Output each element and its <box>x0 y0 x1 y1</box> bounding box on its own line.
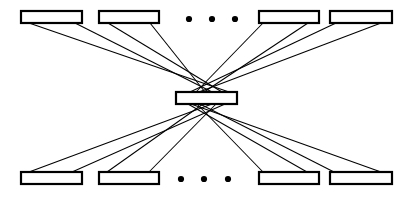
top-ellipsis-dot-3 <box>232 16 238 22</box>
node-rect-bottom-4[interactable] <box>330 172 392 184</box>
diagram-canvas <box>0 0 411 200</box>
diagram-svg <box>0 0 411 200</box>
top-ellipsis <box>186 16 238 22</box>
node-rect-bottom-3[interactable] <box>259 172 319 184</box>
node-top-2[interactable] <box>99 11 159 23</box>
bottom-ellipsis <box>178 176 231 182</box>
node-bottom-2[interactable] <box>99 172 159 184</box>
top-ellipsis-dot-1 <box>186 16 192 22</box>
node-bottom-4[interactable] <box>330 172 392 184</box>
link-line-center-to-bottom-1 <box>72 104 225 172</box>
node-top-4[interactable] <box>330 11 392 23</box>
node-rect-bottom-1[interactable] <box>21 172 82 184</box>
node-top-1[interactable] <box>21 11 82 23</box>
link-line-top-2-to-center <box>108 23 222 92</box>
node-center[interactable] <box>176 92 237 104</box>
top-ellipsis-dot-2 <box>209 16 215 22</box>
bottom-ellipsis-dot-1 <box>178 176 184 182</box>
link-line-top-4-to-center <box>190 23 336 92</box>
link-line-top-3-to-center <box>196 23 263 92</box>
node-rect-top-4[interactable] <box>330 11 392 23</box>
link-line-center-to-bottom-4 <box>191 104 381 172</box>
node-top-3[interactable] <box>259 11 319 23</box>
node-rect-top-2[interactable] <box>99 11 159 23</box>
node-layer <box>21 11 392 184</box>
node-rect-top-1[interactable] <box>21 11 82 23</box>
link-line-center-to-bottom-3 <box>188 104 307 172</box>
node-bottom-3[interactable] <box>259 172 319 184</box>
link-line-top-2-to-center <box>150 23 205 92</box>
node-rect-top-3[interactable] <box>259 11 319 23</box>
node-rect-center[interactable] <box>176 92 237 104</box>
link-line-top-1-to-center <box>29 23 229 92</box>
node-rect-bottom-2[interactable] <box>99 172 159 184</box>
node-bottom-1[interactable] <box>21 172 82 184</box>
link-line-top-3-to-center <box>204 23 308 92</box>
link-line-top-4-to-center <box>199 23 381 92</box>
link-line-top-1-to-center <box>75 23 212 92</box>
bottom-ellipsis-dot-3 <box>225 176 231 182</box>
bottom-ellipsis-dot-2 <box>201 176 207 182</box>
